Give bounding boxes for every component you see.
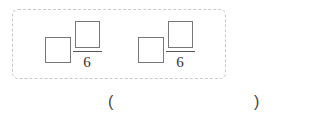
numerator-box-1[interactable] <box>75 21 100 48</box>
denominator-1: 6 <box>77 55 97 70</box>
whole-number-box-2[interactable] <box>138 37 164 63</box>
fraction-bar-1 <box>73 51 102 52</box>
answer-blank[interactable] <box>118 94 252 110</box>
numerator-box-2[interactable] <box>168 21 193 48</box>
answer-open-paren: ( <box>108 94 113 110</box>
denominator-2: 6 <box>170 55 190 70</box>
fraction-bar-2 <box>166 51 195 52</box>
answer-close-paren: ) <box>254 94 259 110</box>
whole-number-box-1[interactable] <box>45 37 71 63</box>
